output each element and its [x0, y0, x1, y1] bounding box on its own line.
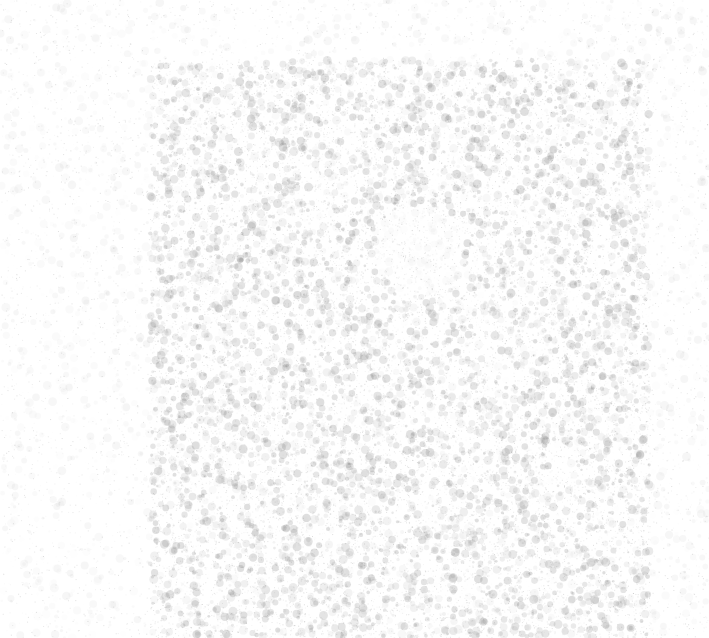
noise-canvas [0, 0, 709, 638]
noise-texture [0, 0, 709, 638]
